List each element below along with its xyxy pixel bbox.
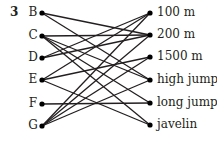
right-dot-200-m — [147, 32, 152, 37]
right-dot-high-jump — [147, 77, 152, 82]
left-dot-f — [39, 101, 44, 106]
left-dot-b — [39, 10, 44, 15]
right-dot-100-m — [147, 10, 152, 15]
left-dot-e — [39, 77, 44, 82]
left-dot-c — [39, 33, 44, 38]
left-dot-d — [39, 55, 44, 60]
left-dot-g — [39, 123, 44, 128]
matching-diagram — [0, 0, 217, 142]
connection-line — [42, 57, 150, 126]
connection-line — [42, 36, 150, 80]
right-dot-1500-m — [147, 54, 152, 59]
connection-line — [42, 13, 150, 35]
right-dot-javelin — [147, 122, 152, 127]
right-dot-long-jump — [147, 100, 152, 105]
connection-line — [42, 57, 150, 80]
